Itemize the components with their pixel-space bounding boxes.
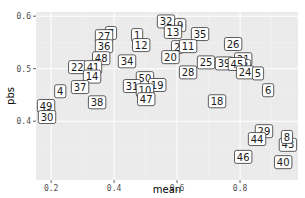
data-label-text: 36	[98, 41, 111, 52]
data-label: 4	[55, 85, 66, 98]
data-label: 6	[262, 84, 273, 97]
data-label-text: 12	[135, 40, 148, 51]
data-label-text: 34	[121, 56, 134, 67]
data-label-text: 20	[164, 52, 177, 63]
data-label-text: 28	[182, 67, 195, 78]
data-label: 46	[235, 150, 252, 163]
data-label: 13	[164, 25, 181, 38]
data-label: 12	[132, 39, 149, 52]
data-label-text: 37	[74, 82, 87, 93]
y-axis: 0.40.50.6	[17, 12, 36, 126]
data-label: 37	[71, 81, 88, 94]
data-label-text: 22	[71, 62, 84, 73]
data-label-text: 40	[277, 157, 290, 168]
data-label-text: 13	[167, 27, 180, 38]
data-label: 30	[38, 111, 55, 124]
data-label: 18	[208, 95, 225, 108]
data-label-text: 35	[194, 29, 207, 40]
y-axis-title: pbs	[5, 87, 16, 105]
data-label: 24	[236, 66, 253, 79]
data-label: 8	[281, 130, 292, 143]
data-label-text: 25	[200, 57, 213, 68]
data-label-text: 4	[57, 86, 63, 97]
data-label-text: 6	[265, 85, 271, 96]
data-label: 34	[118, 55, 135, 68]
data-label-text: 30	[41, 112, 54, 123]
y-tick-label: 0.5	[17, 65, 32, 74]
data-label: 5	[252, 67, 263, 80]
data-label: 26	[224, 38, 241, 51]
data-label-text: 8	[284, 132, 290, 143]
x-axis: 0.20.40.60.8	[44, 180, 248, 193]
data-label-text: 11	[182, 41, 195, 52]
y-tick-label: 0.4	[17, 117, 32, 126]
data-label: 47	[138, 93, 155, 106]
y-tick-label: 0.6	[17, 12, 32, 21]
x-axis-title: mean	[153, 184, 181, 195]
x-tick-label: 0.2	[44, 184, 59, 193]
data-label: 20	[162, 51, 179, 64]
x-tick-label: 0.8	[233, 184, 248, 193]
data-label: 25	[197, 56, 214, 69]
data-label-text: 38	[91, 97, 104, 108]
data-label-text: 49	[40, 101, 53, 112]
data-label: 38	[88, 96, 105, 109]
x-tick-label: 0.4	[107, 184, 122, 193]
data-label-text: 46	[237, 152, 250, 163]
data-label: 28	[179, 66, 196, 79]
data-label: 11	[179, 40, 196, 53]
data-label: 35	[191, 28, 208, 41]
data-label-text: 5	[255, 68, 261, 79]
data-label-text: 47	[140, 94, 153, 105]
data-label-text: 18	[211, 96, 224, 107]
scatter-chart: 3291335727136122112620483422412521393452…	[0, 0, 305, 198]
data-label-text: 24	[239, 67, 252, 78]
data-label-text: 44	[251, 134, 264, 145]
data-label: 40	[274, 156, 291, 169]
data-label: 36	[95, 40, 112, 53]
data-label-text: 26	[227, 39, 240, 50]
data-label: 44	[248, 133, 265, 146]
